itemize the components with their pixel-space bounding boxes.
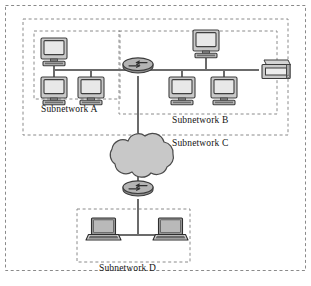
laptop-icon — [153, 218, 188, 240]
computer-icon — [193, 30, 219, 58]
subnetwork-d-devices — [86, 218, 188, 240]
laptop-icon — [86, 218, 121, 240]
subnetwork-a-label: Subnetwork A — [41, 104, 97, 114]
subnetwork-b-label: Subnetwork B — [172, 115, 228, 125]
computer-icon — [41, 77, 67, 105]
computer-icon — [78, 77, 104, 105]
subnetwork-a-devices — [41, 38, 104, 105]
computer-icon — [211, 77, 237, 105]
network-topology-diagram: Subnetwork A Subnetwork B Subnetwork C S… — [0, 0, 311, 286]
computer-icon — [41, 38, 67, 66]
router-icon — [123, 181, 153, 196]
cloud-icon — [110, 133, 173, 177]
computer-icon — [169, 77, 195, 105]
printer-icon — [262, 60, 291, 79]
subnetwork-b-devices — [169, 30, 291, 105]
subnetwork-d-label: Subnetwork D — [99, 263, 156, 273]
router-icon — [123, 58, 153, 73]
subnetwork-c-label: Subnetwork C — [172, 138, 228, 148]
